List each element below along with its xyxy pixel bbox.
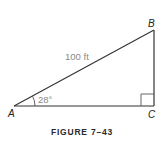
figure-caption: FIGURE 7–43 xyxy=(0,127,164,137)
triangle-diagram: A B C 100 ft 28° xyxy=(0,0,164,146)
angle-arc-a xyxy=(33,96,36,106)
vertex-label-c: C xyxy=(148,109,156,120)
vertex-label-b: B xyxy=(148,18,155,29)
right-angle-marker xyxy=(141,94,154,106)
hypotenuse-length-label: 100 ft xyxy=(65,51,89,62)
angle-a-label: 28° xyxy=(38,94,53,105)
right-triangle-figure: A B C 100 ft 28° FIGURE 7–43 xyxy=(0,0,164,146)
side-ab-hypotenuse xyxy=(14,30,154,106)
vertex-label-a: A xyxy=(7,108,15,119)
